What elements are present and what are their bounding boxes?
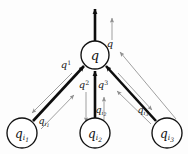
annot-arrow-in-top-right: [120, 52, 176, 119]
annot-arrow-out-3: [118, 73, 152, 110]
edge-label-out-2: q2: [79, 79, 89, 91]
edge-child1-to-center: [33, 66, 84, 121]
edge-label-out-1: q1: [61, 59, 71, 71]
node-center-label: q: [91, 48, 99, 63]
charge-flow-diagram: q qi1 qi2 qi3 q q1 q2 q3 qi1 qi2 qi3: [0, 0, 188, 154]
annot-arrow-out-1: [32, 73, 72, 113]
edge-label-in-2: qi2: [95, 104, 106, 117]
edge-label-out-3: q3: [98, 79, 108, 91]
edge-label-out-top: q: [107, 38, 113, 49]
